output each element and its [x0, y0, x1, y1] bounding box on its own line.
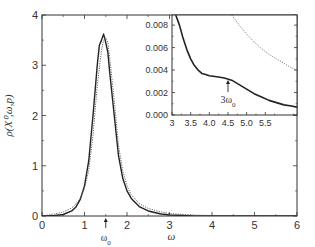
inset-background	[172, 15, 297, 115]
inset-ytick-label: 0.004	[145, 65, 168, 75]
main-xtick-label: 1	[81, 219, 87, 231]
arrow-up-icon	[104, 218, 108, 222]
inset-ytick-label: 0.006	[145, 43, 168, 53]
main-xtick-label: 5	[251, 219, 257, 231]
inset-xtick-label: 5.0	[240, 118, 253, 128]
inset-xtick-label: 4.0	[203, 118, 216, 128]
main-ytick-label: 1	[32, 160, 38, 172]
inset-ytick-label: 0.002	[145, 88, 168, 98]
main-xtick-label: 0	[39, 219, 45, 231]
main-xtick-label: 2	[124, 219, 130, 231]
inset-ytick-label: 0.000	[145, 110, 168, 120]
inset-ytick-label: 0.008	[145, 20, 168, 30]
main-ytick-label: 3	[32, 59, 38, 71]
inset-xtick-label: 3.5	[184, 118, 197, 128]
inset-xtick-label: 4.5	[222, 118, 235, 128]
main-ylabel: ρ(X⁰,ω,p)	[2, 94, 15, 137]
main-xtick-label: 6	[294, 219, 300, 231]
main-xtick-label: 4	[209, 219, 215, 231]
chart: 012345601234ωρ(X⁰,ω,p)ω0 33.54.04.55.05.…	[0, 0, 315, 247]
main-annotation-label: ω0	[101, 232, 112, 247]
main-ytick-label: 2	[32, 110, 38, 122]
main-xlabel: ω	[168, 230, 176, 242]
inset-plot: 33.54.04.55.05.50.0000.0020.0040.0060.00…	[145, 15, 297, 128]
inset-xtick-label: 5.5	[259, 118, 272, 128]
main-ytick-label: 0	[32, 210, 38, 222]
main-ytick-label: 4	[32, 9, 38, 21]
inset-xtick-label: 3	[169, 118, 174, 128]
